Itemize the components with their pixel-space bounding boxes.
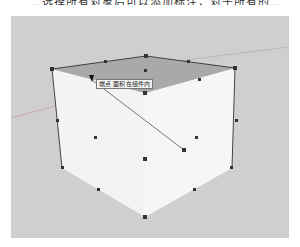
left-face[interactable]: [52, 69, 145, 217]
scene-svg: [11, 16, 289, 238]
right-face[interactable]: [145, 68, 235, 217]
inference-tooltip: 端点 面积 在组件内: [96, 79, 153, 89]
green-axis-line: [170, 47, 289, 62]
3d-viewport[interactable]: 端点 面积 在组件内: [11, 16, 289, 238]
caption-text: …选择所有对象后可以添加标注，对于所有的…: [30, 0, 300, 5]
